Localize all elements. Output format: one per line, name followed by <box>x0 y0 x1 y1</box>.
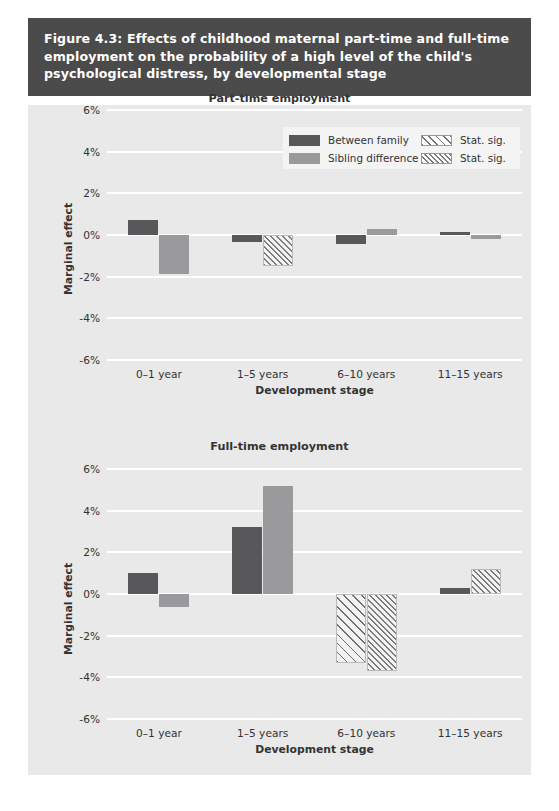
bar <box>263 486 293 594</box>
x-axis-tick: 11–15 years <box>438 727 503 739</box>
y-axis-tick: 2% <box>83 546 100 558</box>
bar <box>263 235 293 266</box>
x-axis-tick: 1–5 years <box>237 727 288 739</box>
legend-row: Sibling difference Stat. sig. <box>289 150 514 166</box>
y-axis-tick: 6% <box>83 104 100 116</box>
x-axis-tick: 6–10 years <box>337 727 395 739</box>
chart-panel: Part-time employment Marginal effect 6%4… <box>28 105 531 775</box>
legend-swatch-stat-sig-mid <box>421 153 452 164</box>
legend-swatch-stat-sig-dark <box>421 135 452 146</box>
y-axis-tick: -4% <box>79 671 100 683</box>
x-axis-tick: 0–1 year <box>136 368 182 380</box>
bar <box>159 594 189 607</box>
bar <box>128 220 158 235</box>
bar <box>128 573 158 594</box>
legend-label-sibling-difference: Sibling difference <box>328 152 419 164</box>
figure-title-banner: Figure 4.3: Effects of childhood materna… <box>28 18 531 96</box>
y-axis-tick: 0% <box>83 588 100 600</box>
legend-entry-stat-sig-dark: Stat. sig. <box>421 134 506 146</box>
figure-page: Figure 4.3: Effects of childhood materna… <box>0 0 559 811</box>
bar-group <box>315 469 419 719</box>
legend-label-stat-sig-dark: Stat. sig. <box>460 134 506 146</box>
figure-title-line-1: Figure 4.3: Effects of childhood materna… <box>44 30 515 48</box>
legend-row: Between family Stat. sig. <box>289 132 514 148</box>
bar <box>232 235 262 242</box>
legend-entry-sibling-difference: Sibling difference <box>289 152 421 164</box>
chart-legend: Between family Stat. sig. Sibling differ… <box>283 127 520 169</box>
figure-title-line-3: psychological distress, by developmental… <box>44 65 515 83</box>
x-axis-tick: 0–1 year <box>136 727 182 739</box>
bar <box>367 229 397 235</box>
y-axis-tick: 4% <box>83 146 100 158</box>
bar-group <box>418 469 522 719</box>
chart-subtitle-part-time: Part-time employment <box>28 92 531 105</box>
y-axis-tick: 2% <box>83 187 100 199</box>
y-axis-tick: 0% <box>83 229 100 241</box>
bar <box>440 588 470 594</box>
x-axis-tick: 1–5 years <box>237 368 288 380</box>
plot-area-full-time: 6%4%2%0%-2%-4%-6%0–1 year1–5 years6–10 y… <box>107 469 522 719</box>
y-axis-tick: -6% <box>79 354 100 366</box>
y-axis-tick: -2% <box>79 630 100 642</box>
y-axis-label-part-time: Marginal effect <box>62 203 75 295</box>
legend-swatch-sibling-difference <box>289 153 320 164</box>
bar-group <box>107 110 211 360</box>
y-axis-tick: 4% <box>83 505 100 517</box>
x-axis-tick: 11–15 years <box>438 368 503 380</box>
legend-label-stat-sig-mid: Stat. sig. <box>460 152 506 164</box>
y-axis-tick: -2% <box>79 271 100 283</box>
y-axis-tick: -6% <box>79 713 100 725</box>
bar <box>336 594 366 663</box>
bar <box>232 527 262 594</box>
x-axis-label-full-time: Development stage <box>107 743 522 756</box>
y-axis-tick: -4% <box>79 312 100 324</box>
bar <box>471 235 501 239</box>
bar <box>440 232 470 235</box>
y-axis-label-full-time: Marginal effect <box>62 563 75 655</box>
chart-full-time: Full-time employment Marginal effect 6%4… <box>28 435 531 775</box>
figure-title-line-2: employment on the probability of a high … <box>44 48 515 66</box>
legend-label-between-family: Between family <box>328 134 409 146</box>
x-axis-tick: 6–10 years <box>337 368 395 380</box>
legend-entry-between-family: Between family <box>289 134 421 146</box>
legend-entry-stat-sig-mid: Stat. sig. <box>421 152 506 164</box>
bar <box>159 235 189 274</box>
chart-subtitle-full-time: Full-time employment <box>28 440 531 453</box>
legend-swatch-between-family <box>289 135 320 146</box>
bar-group <box>211 469 315 719</box>
x-axis-label-part-time: Development stage <box>107 384 522 397</box>
bar <box>336 235 366 244</box>
bar <box>471 569 501 594</box>
bar-group <box>107 469 211 719</box>
y-axis-tick: 6% <box>83 463 100 475</box>
bar <box>367 594 397 671</box>
